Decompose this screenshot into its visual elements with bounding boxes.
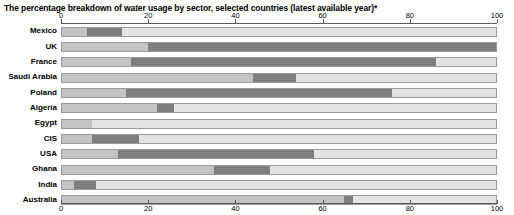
bar-track: [61, 165, 497, 175]
chart-row: Ghana: [61, 165, 497, 175]
row-label-france: France: [31, 58, 57, 66]
row-label-poland: Poland: [30, 89, 57, 97]
chart-row: CIS: [61, 134, 497, 144]
bar-segment-industrial: [131, 57, 436, 67]
row-label-ghana: Ghana: [32, 165, 57, 173]
bar-segment-domestic: [61, 149, 118, 159]
bar-track: [61, 180, 497, 190]
bar-segment-agricultural: [392, 88, 497, 98]
bar-segment-domestic: [61, 119, 92, 129]
chart-row: Algeria: [61, 103, 497, 113]
plot-area: MexicoUKFranceSaudi ArabiaPolandAlgeriaE…: [61, 24, 497, 208]
x-tick-label-bottom-40: 40: [231, 204, 239, 213]
bar-segment-agricultural: [296, 73, 497, 83]
bar-segment-industrial: [253, 73, 297, 83]
bar-segment-industrial: [126, 88, 392, 98]
x-tick-label-bottom-80: 80: [406, 204, 414, 213]
row-label-egypt: Egypt: [35, 119, 57, 127]
bar-segment-industrial: [148, 42, 497, 52]
bar-segment-industrial: [214, 165, 271, 175]
bar-segment-domestic: [61, 134, 92, 144]
x-axis-bottom-ticks: [61, 0, 497, 5]
bar-segment-domestic: [61, 57, 131, 67]
bar-track: [61, 134, 497, 144]
bar-segment-domestic: [61, 73, 253, 83]
row-label-algeria: Algeria: [30, 104, 57, 112]
bar-segment-agricultural: [314, 149, 497, 159]
row-label-uk: UK: [45, 43, 57, 51]
row-label-mexico: Mexico: [30, 27, 57, 35]
bar-segment-agricultural: [139, 134, 497, 144]
bar-segment-domestic: [61, 42, 148, 52]
row-label-cis: CIS: [44, 135, 57, 143]
bar-track: [61, 119, 497, 129]
bar-segment-domestic: [61, 180, 74, 190]
bar-track: [61, 149, 497, 159]
x-axis-bottom-labels: 020406080100: [61, 204, 497, 214]
row-label-saudi-arabia: Saudi Arabia: [8, 73, 57, 81]
bar-segment-domestic: [61, 103, 157, 113]
x-axis-top-labels: 020406080100: [61, 11, 497, 21]
bar-track: [61, 103, 497, 113]
x-tick-label-bottom-0: 0: [59, 204, 63, 213]
bar-segment-agricultural: [122, 27, 497, 37]
bar-segment-agricultural: [174, 103, 497, 113]
x-tick-label-bottom-20: 20: [144, 204, 152, 213]
row-label-india: India: [38, 181, 57, 189]
bar-segment-industrial: [157, 103, 174, 113]
water-usage-chart: The percentage breakdown of water usage …: [0, 0, 514, 215]
bar-track: [61, 88, 497, 98]
bar-segment-industrial: [74, 180, 96, 190]
chart-row: France: [61, 57, 497, 67]
chart-row: Saudi Arabia: [61, 73, 497, 83]
bar-track: [61, 27, 497, 37]
chart-row: USA: [61, 149, 497, 159]
x-tick-label-bottom-60: 60: [318, 204, 326, 213]
chart-row: Mexico: [61, 27, 497, 37]
bar-segment-agricultural: [92, 119, 497, 129]
bar-segment-industrial: [92, 134, 140, 144]
chart-row: India: [61, 180, 497, 190]
bar-segment-domestic: [61, 165, 214, 175]
bar-track: [61, 42, 497, 52]
bar-segment-agricultural: [96, 180, 497, 190]
bar-segment-industrial: [118, 149, 314, 159]
bar-segment-industrial: [87, 27, 122, 37]
bar-segment-agricultural: [270, 165, 497, 175]
bar-track: [61, 73, 497, 83]
bar-segment-domestic: [61, 88, 126, 98]
row-label-usa: USA: [40, 150, 57, 158]
bar-segment-domestic: [61, 27, 87, 37]
chart-row: Poland: [61, 88, 497, 98]
x-tick-label-bottom-100: 100: [491, 204, 504, 213]
chart-row: Egypt: [61, 119, 497, 129]
chart-row: UK: [61, 42, 497, 52]
bar-segment-agricultural: [436, 57, 497, 67]
row-label-australia: Australia: [23, 196, 57, 204]
x-tick-top-100: [497, 19, 498, 23]
bar-track: [61, 57, 497, 67]
